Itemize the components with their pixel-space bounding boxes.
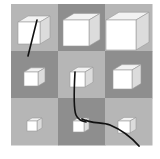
cube-icon [63, 13, 100, 46]
cube-icon [27, 118, 42, 131]
cube-icon [113, 65, 141, 89]
cube-grid-puzzle [0, 0, 160, 159]
cube-icon [70, 67, 93, 87]
cube-icon [24, 68, 45, 86]
cube-icon [106, 12, 149, 50]
